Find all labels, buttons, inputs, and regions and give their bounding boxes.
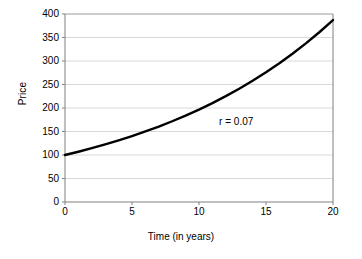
- price-growth-chart: Price 050100150200250300350400 05101520 …: [0, 0, 362, 259]
- plot-area: [0, 0, 362, 259]
- gridlines: [65, 14, 333, 179]
- price-curve: [65, 20, 333, 155]
- rate-annotation: r = 0.07: [219, 116, 253, 127]
